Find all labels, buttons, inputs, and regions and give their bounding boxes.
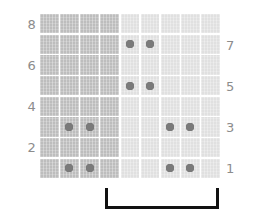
data-point-dot xyxy=(65,164,73,172)
left-axis-tick-2: 2 xyxy=(14,141,36,154)
grid-cell xyxy=(181,55,200,74)
grid-cell xyxy=(161,55,180,74)
grid-cell xyxy=(100,138,119,157)
grid-cell xyxy=(80,117,99,136)
grid-cell xyxy=(121,14,140,33)
right-axis-tick-1: 1 xyxy=(226,162,248,175)
grid-cell xyxy=(121,97,140,116)
grid-cell xyxy=(100,35,119,54)
grid-cell xyxy=(60,14,79,33)
grid-cell xyxy=(100,76,119,95)
grid-cell xyxy=(161,138,180,157)
grid-cell xyxy=(141,76,160,95)
grid-cell xyxy=(100,97,119,116)
right-axis-tick-7: 7 xyxy=(226,39,248,52)
annotation-bracket xyxy=(104,188,220,210)
left-axis: 8 6 4 2 xyxy=(10,14,36,178)
grid-cell xyxy=(161,76,180,95)
grid-cell xyxy=(181,159,200,178)
right-axis-tick-5: 5 xyxy=(226,80,248,93)
left-axis-tick-4: 4 xyxy=(14,100,36,113)
grid-cell xyxy=(40,117,59,136)
data-point-dot xyxy=(146,82,154,90)
data-point-dot xyxy=(166,123,174,131)
grid-cell xyxy=(80,14,99,33)
data-point-dot xyxy=(186,164,194,172)
grid-cell xyxy=(181,138,200,157)
data-point-dot xyxy=(126,40,134,48)
grid-cell xyxy=(60,76,79,95)
grid-cell xyxy=(201,138,220,157)
grid-cell xyxy=(161,117,180,136)
data-point-dot xyxy=(86,164,94,172)
grid-cell xyxy=(161,159,180,178)
grid-cell xyxy=(201,117,220,136)
grid-cell xyxy=(201,76,220,95)
grid-cell xyxy=(80,35,99,54)
grid-cell xyxy=(100,55,119,74)
grid-cell xyxy=(141,14,160,33)
grid-cell xyxy=(80,97,99,116)
grid-cell xyxy=(60,97,79,116)
right-axis: 7 5 3 1 xyxy=(226,14,252,178)
bracket-icon xyxy=(104,188,220,210)
grid-cell xyxy=(181,14,200,33)
data-point-dot xyxy=(86,123,94,131)
grid-cell xyxy=(80,55,99,74)
grid-cell xyxy=(161,35,180,54)
grid-cell xyxy=(40,55,59,74)
grid-cell xyxy=(141,97,160,116)
grid-cell xyxy=(121,35,140,54)
grid-cell xyxy=(60,138,79,157)
data-point-dot xyxy=(166,164,174,172)
grid-cell xyxy=(121,159,140,178)
left-axis-tick-6: 6 xyxy=(14,59,36,72)
grid-cell xyxy=(121,76,140,95)
grid-cell xyxy=(181,97,200,116)
grid-cell xyxy=(100,14,119,33)
grid-cell xyxy=(141,35,160,54)
data-point-dot xyxy=(186,123,194,131)
grid-cell xyxy=(201,55,220,74)
grid-cell xyxy=(141,138,160,157)
grid-cell xyxy=(80,76,99,95)
grid-cell xyxy=(181,35,200,54)
grid-cell xyxy=(100,117,119,136)
dot-matrix-grid xyxy=(40,14,220,178)
grid-cell xyxy=(60,55,79,74)
grid-cell xyxy=(201,159,220,178)
grid-cell xyxy=(60,117,79,136)
grid-cell xyxy=(40,14,59,33)
grid-cell xyxy=(80,159,99,178)
grid-cell xyxy=(141,55,160,74)
grid-cell xyxy=(40,35,59,54)
chart-canvas: 8 6 4 2 7 5 3 1 xyxy=(0,0,260,218)
grid-cell xyxy=(201,35,220,54)
grid-cell xyxy=(141,159,160,178)
grid-cell xyxy=(201,97,220,116)
grid-cell xyxy=(141,117,160,136)
data-point-dot xyxy=(126,82,134,90)
grid-cell xyxy=(80,138,99,157)
grid-cell xyxy=(161,14,180,33)
grid-cell xyxy=(40,97,59,116)
grid-cell xyxy=(40,76,59,95)
grid-cell xyxy=(121,138,140,157)
grid-cell xyxy=(181,117,200,136)
grid-cell xyxy=(121,117,140,136)
grid-cell xyxy=(40,138,59,157)
grid-cell xyxy=(100,159,119,178)
right-axis-tick-3: 3 xyxy=(226,121,248,134)
grid-cell xyxy=(181,76,200,95)
grid-cell xyxy=(121,55,140,74)
data-point-dot xyxy=(146,40,154,48)
left-axis-tick-8: 8 xyxy=(14,18,36,31)
grid-cell xyxy=(40,159,59,178)
grid-cell xyxy=(60,159,79,178)
data-point-dot xyxy=(65,123,73,131)
grid-cell xyxy=(201,14,220,33)
grid-cell xyxy=(161,97,180,116)
grid-cell xyxy=(60,35,79,54)
